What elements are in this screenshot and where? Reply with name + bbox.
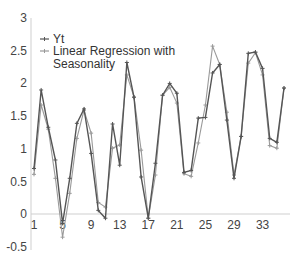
x-tick-label: 13 [113, 218, 127, 232]
series-regression [32, 44, 286, 239]
x-tick-label: 1 [31, 218, 38, 232]
y-tick-label: 1.5 [10, 109, 27, 123]
y-tick-labels: 32.521.510.50-0.5 [6, 11, 27, 254]
legend-label-regression-line2: Seasonality [53, 57, 115, 71]
y-tick-label: 0 [20, 207, 27, 221]
x-tick-label: 29 [227, 218, 241, 232]
x-tick-label: 9 [88, 218, 95, 232]
y-tick-label: 2 [20, 76, 27, 90]
line-chart: 32.521.510.50-0.5 159131721252933 Yt Lin… [0, 0, 298, 263]
x-tick-label: 25 [199, 218, 213, 232]
y-tick-label: 0.5 [10, 175, 27, 189]
legend: Yt Linear Regression with Seasonality [40, 32, 175, 71]
y-tick-label: 3 [20, 11, 27, 25]
y-tick-label: 2.5 [10, 44, 27, 58]
x-tick-label: 33 [256, 218, 270, 232]
x-tick-labels: 159131721252933 [31, 218, 270, 232]
series-group [32, 44, 286, 239]
y-tick-label: 1 [20, 142, 27, 156]
legend-label-regression-line1: Linear Regression with [53, 44, 175, 58]
legend-item-regression: Linear Regression with Seasonality [40, 44, 175, 71]
x-tick-label: 21 [170, 218, 184, 232]
y-tick-label: -0.5 [6, 240, 27, 254]
